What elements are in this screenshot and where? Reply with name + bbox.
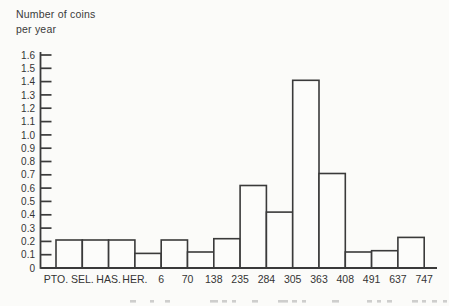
histogram-bar (161, 240, 187, 268)
y-tick-label: 1.0 (21, 130, 35, 141)
histogram-bar (56, 240, 82, 268)
cropped-caption-fragment (412, 300, 418, 303)
cropped-caption-fragment (292, 300, 297, 303)
scanned-histogram-page: Number of coins per year 00.10.20.30.40.… (0, 0, 449, 306)
y-tick-label: 0.9 (21, 143, 35, 154)
cropped-caption-fragment (422, 300, 426, 303)
y-tick-label: 0.1 (21, 249, 35, 260)
y-tick-label: 1.4 (21, 76, 35, 87)
histogram-bar (319, 174, 345, 269)
y-tick-label: 0 (29, 263, 35, 274)
cropped-caption-fragment (367, 300, 372, 303)
y-tick-label: 0.3 (21, 223, 35, 234)
x-bin-edge-label: SEL. (71, 273, 94, 285)
y-tick-label: 1.2 (21, 103, 35, 114)
cropped-caption-fragment (150, 300, 154, 303)
x-bin-edge-label: 235 (231, 273, 249, 285)
y-tick-label: 0.2 (21, 236, 35, 247)
histogram-bar (135, 253, 161, 268)
x-bin-edge-label: 408 (337, 273, 355, 285)
histogram-bar (345, 252, 371, 268)
histogram-bar (398, 237, 424, 268)
cropped-caption-fragment (278, 300, 288, 303)
cropped-caption-fragment (377, 300, 381, 303)
histogram-bar (372, 251, 398, 268)
y-tick-label: 0.4 (21, 209, 35, 220)
cropped-caption-fragment (302, 300, 306, 303)
x-bin-edge-label: 138 (205, 273, 223, 285)
histogram-bar (266, 212, 292, 268)
y-tick-label: 1.5 (21, 63, 35, 74)
cropped-caption-fragment (332, 300, 339, 303)
cropped-caption-fragment (130, 300, 136, 303)
y-tick-label: 1.1 (21, 116, 35, 127)
x-bin-edge-label: 6 (158, 273, 164, 285)
cropped-caption-fragment (387, 300, 392, 303)
y-tick-label: 0.7 (21, 169, 35, 180)
y-tick-label: 1.6 (21, 50, 35, 61)
cropped-caption-fragment (222, 300, 227, 303)
x-bin-edge-label: 491 (363, 273, 381, 285)
cropped-caption-fragment (432, 300, 437, 303)
cropped-caption-fragment (443, 300, 447, 303)
x-bin-edge-label: HER. (122, 273, 147, 285)
histogram-bar (109, 240, 135, 268)
x-bin-edge-label: 305 (284, 273, 302, 285)
y-tick-label: 0.5 (21, 196, 35, 207)
cropped-caption-fragment (232, 300, 236, 303)
cropped-caption-fragment (252, 300, 258, 303)
x-bin-edge-label: 747 (415, 273, 433, 285)
coins-per-year-histogram: 00.10.20.30.40.50.60.70.80.91.01.11.21.3… (0, 0, 449, 306)
x-bin-edge-label: 284 (258, 273, 276, 285)
histogram-bar (188, 252, 214, 268)
x-bin-edge-label: HAS. (96, 273, 121, 285)
y-tick-label: 1.3 (21, 90, 35, 101)
x-bin-edge-label: 70 (182, 273, 194, 285)
y-tick-label: 0.8 (21, 156, 35, 167)
histogram-bar (82, 240, 108, 268)
y-tick-label: 0.6 (21, 183, 35, 194)
x-bin-edge-label: 363 (310, 273, 328, 285)
cropped-caption-fragment (165, 300, 170, 303)
x-bin-edge-label: 637 (389, 273, 407, 285)
x-bin-edge-label: PTO. (44, 273, 68, 285)
histogram-bar (240, 186, 266, 269)
cropped-caption-fragment (210, 300, 218, 303)
histogram-bar (293, 80, 319, 268)
histogram-bar (214, 239, 240, 268)
